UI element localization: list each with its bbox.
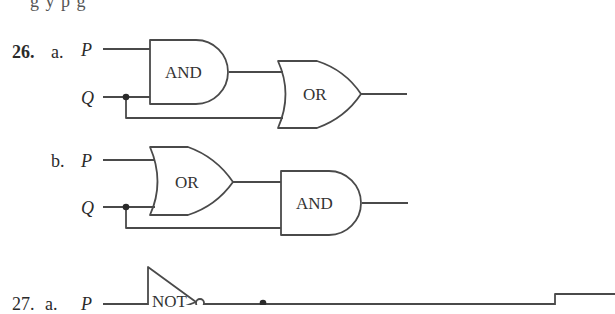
input-label-26a-p: P (81, 41, 92, 59)
gate-label-26b-or: OR (175, 174, 199, 191)
input-label-26a-q: Q (81, 89, 94, 107)
gate-label-26a-or: OR (303, 86, 327, 103)
part-label-26a: a. (51, 43, 64, 61)
gate-27a-partial (555, 294, 615, 305)
wire-26b-q-branch (126, 207, 281, 228)
not-bubble-27a (196, 299, 204, 305)
junction-dot-27a (260, 300, 267, 305)
problem-number-27: 27. (12, 295, 35, 313)
gate-label-27a-not: NOT (152, 293, 187, 310)
gate-label-26a-and: AND (165, 64, 202, 81)
input-label-27a-p: P (81, 295, 92, 313)
input-label-26b-p: P (81, 152, 92, 170)
problem-number-26: 26. (12, 43, 35, 61)
junction-dot-26a (123, 94, 130, 101)
part-label-26b: b. (51, 152, 65, 170)
part-label-27a: a. (45, 295, 58, 313)
gate-label-26b-and: AND (296, 195, 333, 212)
input-label-26b-q: Q (81, 199, 94, 217)
junction-dot-26b (123, 204, 130, 211)
